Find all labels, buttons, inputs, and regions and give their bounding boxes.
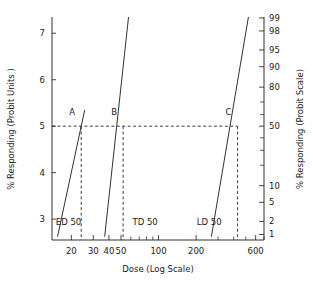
x-tick-label: 600: [248, 246, 264, 256]
y-tick-label: 5: [40, 121, 45, 131]
y2-tick-label: 1: [269, 229, 274, 239]
probit-dose-response-chart: 76543 99989590805010521 2030405010020060…: [0, 0, 313, 281]
y-tick-label: 4: [40, 168, 45, 178]
point-label-c: C: [226, 107, 232, 117]
annotation-ed-50: ED 50: [56, 217, 81, 227]
series-point-labels: ABC: [69, 107, 231, 117]
series-line-c: [211, 17, 248, 237]
y2-tick-label: 50: [269, 121, 280, 131]
y-tick-label: 7: [40, 28, 45, 38]
y2-tick-label: 99: [269, 13, 280, 23]
x-tick-label: 100: [150, 246, 166, 256]
x-tick-label: 50: [116, 246, 127, 256]
y2-tick-label: 90: [269, 62, 280, 72]
series-annotations: ED 50TD 50LD 50: [56, 217, 222, 227]
y-axis-right-title: % Responding (Probit Scale): [295, 69, 305, 189]
x-axis-ticks: 20304050100200600: [66, 235, 264, 256]
annotation-td-50: TD 50: [131, 217, 157, 227]
y-axis-left-title: % Responding (Probit Units ): [6, 68, 16, 190]
y-tick-label: 6: [40, 75, 45, 85]
point-label-b: B: [111, 107, 117, 117]
annotation-ld-50: LD 50: [197, 217, 222, 227]
plot-frame: [52, 17, 264, 240]
x-tick-label: 30: [88, 246, 99, 256]
x-tick-label: 200: [188, 246, 204, 256]
x-axis-title: Dose (Log Scale): [122, 264, 194, 274]
y2-tick-label: 98: [269, 26, 280, 36]
series-lines: [58, 17, 249, 237]
y-tick-label: 3: [40, 214, 45, 224]
point-label-a: A: [69, 107, 75, 117]
y-axis-right-ticks: 99989590805010521: [259, 13, 280, 239]
series-line-b: [105, 17, 129, 237]
y2-tick-label: 80: [269, 82, 280, 92]
chart-canvas: 76543 99989590805010521 2030405010020060…: [0, 0, 313, 281]
y2-tick-label: 10: [269, 181, 280, 191]
y2-tick-label: 5: [269, 197, 274, 207]
x-tick-label: 20: [66, 246, 77, 256]
y2-tick-label: 2: [269, 216, 274, 226]
y2-tick-label: 95: [269, 45, 280, 55]
x-tick-label: 40: [103, 246, 114, 256]
